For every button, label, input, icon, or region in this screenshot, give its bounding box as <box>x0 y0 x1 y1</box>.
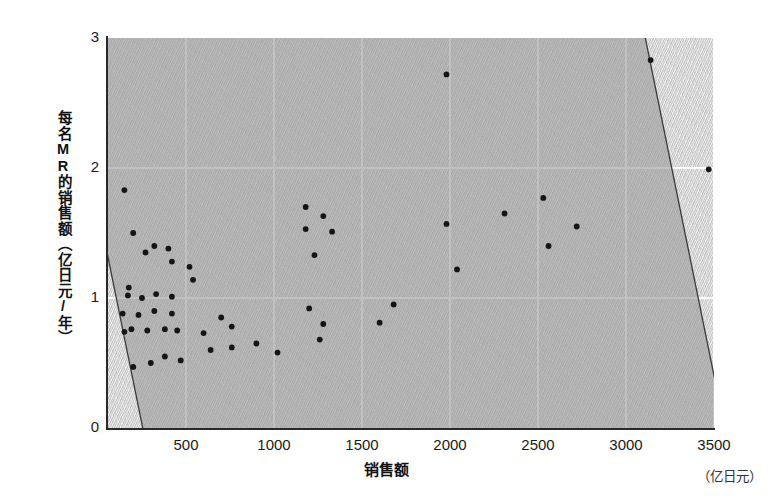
data-point <box>574 224 580 230</box>
data-point <box>169 294 175 300</box>
data-point <box>139 295 145 301</box>
data-point <box>502 211 508 217</box>
data-point <box>444 221 450 227</box>
data-point <box>144 328 150 334</box>
data-point <box>187 264 193 270</box>
data-point <box>320 213 326 219</box>
data-point <box>129 326 135 332</box>
y-tick-label: 2 <box>73 158 99 175</box>
data-point <box>275 350 281 356</box>
data-point <box>303 226 309 232</box>
data-point <box>151 308 157 314</box>
y-axis-line <box>106 36 108 430</box>
data-point <box>162 354 168 360</box>
chart-figure: 0123 500100015002000250030003500 每名MR的销售… <box>0 0 772 499</box>
data-point <box>130 364 136 370</box>
plot-area <box>107 38 714 428</box>
data-point <box>317 337 323 343</box>
data-point <box>169 259 175 265</box>
data-point <box>201 330 207 336</box>
x-tick-label: 3000 <box>596 436 656 453</box>
data-point <box>125 293 131 299</box>
data-point <box>377 320 383 326</box>
x-tick-label: 2000 <box>420 436 480 453</box>
data-point <box>169 311 175 317</box>
data-point <box>329 229 335 235</box>
data-point <box>166 246 172 252</box>
data-point <box>151 243 157 249</box>
data-point <box>122 187 128 193</box>
data-point <box>648 57 654 63</box>
data-point <box>130 230 136 236</box>
data-point <box>143 250 149 256</box>
data-point <box>122 329 128 335</box>
data-point <box>706 166 712 172</box>
data-point <box>120 311 126 317</box>
y-tick-label: 0 <box>73 418 99 435</box>
correlation-ellipse <box>107 38 714 428</box>
x-tick-label: 1500 <box>332 436 392 453</box>
data-point <box>229 324 235 330</box>
data-point <box>190 277 196 283</box>
data-point <box>136 312 142 318</box>
data-point <box>178 358 184 364</box>
correlation-ellipse-shape <box>107 38 714 428</box>
data-point <box>540 195 546 201</box>
x-axis-unit-label: （亿日元） <box>697 465 762 485</box>
data-point <box>546 243 552 249</box>
y-tick-label: 3 <box>73 28 99 45</box>
data-point <box>229 345 235 351</box>
data-point <box>208 347 214 353</box>
data-point <box>153 291 159 297</box>
x-tick-label: 3500 <box>684 436 744 453</box>
data-point <box>218 315 224 321</box>
y-axis-title: 每名MR的销售额（亿日元/年） <box>48 110 70 346</box>
data-point <box>162 326 168 332</box>
data-point <box>148 360 154 366</box>
x-tick-label: 500 <box>156 436 216 453</box>
data-point <box>303 204 309 210</box>
data-point <box>444 72 450 78</box>
data-point <box>391 302 397 308</box>
y-tick-label: 1 <box>73 288 99 305</box>
data-point <box>306 306 312 312</box>
data-point <box>454 267 460 273</box>
x-tick-label: 1000 <box>244 436 304 453</box>
data-point <box>320 321 326 327</box>
data-point <box>126 285 132 291</box>
x-axis-title: 销售额 <box>0 458 772 479</box>
data-point <box>174 328 180 334</box>
data-point <box>312 252 318 258</box>
data-point <box>254 341 260 347</box>
x-tick-label: 2500 <box>508 436 568 453</box>
x-axis-line <box>106 428 715 430</box>
scatter-plot-svg <box>107 38 714 428</box>
